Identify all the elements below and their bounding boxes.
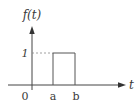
y-axis-label: f(t) bbox=[22, 8, 42, 22]
pulse-diagram-svg: f(t) t 0 1 a b bbox=[0, 0, 140, 104]
y-axis-arrow-icon bbox=[29, 26, 34, 34]
pulse-end-label: b bbox=[72, 90, 79, 103]
x-axis-arrow-icon bbox=[118, 82, 126, 87]
pulse-diagram: f(t) t 0 1 a b bbox=[0, 0, 140, 104]
pulse-shape bbox=[53, 53, 75, 85]
pulse-start-label: a bbox=[50, 90, 57, 103]
level-one-label: 1 bbox=[22, 47, 29, 60]
x-axis-label: t bbox=[129, 78, 134, 92]
origin-label: 0 bbox=[22, 90, 29, 103]
